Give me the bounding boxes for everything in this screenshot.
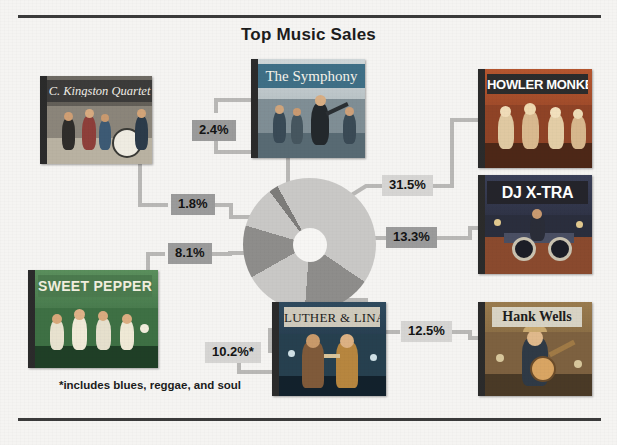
album-dj-x-tra: DJ X-TRA xyxy=(478,175,592,274)
album-title-luther-and-lina: LUTHER & LINA xyxy=(284,311,380,324)
callout-badge-kingston: 1.8% xyxy=(171,194,215,215)
footnote-text: *includes blues, reggae, and soul xyxy=(30,379,270,391)
album-luther-and-lina: LUTHER & LINA xyxy=(272,302,386,396)
callout-badge-luther-lina: 10.2%* xyxy=(205,342,261,363)
frame-bottom-rule xyxy=(18,418,601,421)
album-title-the-symphony: The Symphony xyxy=(258,69,365,84)
frame-top-rule xyxy=(18,15,601,18)
pie-center-hole xyxy=(293,228,327,262)
page-title: Top Music Sales xyxy=(0,25,617,45)
album-title-howler-monkey: HOWLER MONKEY xyxy=(487,78,588,91)
album-c-kingston-quartet: C. Kingston Quartet xyxy=(40,76,152,164)
callout-badge-hank-wells: 12.5% xyxy=(401,321,452,342)
callout-badge-dj-x-tra: 13.3% xyxy=(386,227,437,248)
callout-badge-howler-monkey: 31.5% xyxy=(382,175,433,196)
pie-chart xyxy=(243,178,376,311)
album-title-c-kingston-quartet: C. Kingston Quartet xyxy=(47,85,152,98)
infographic-canvas: Top Music Sales xyxy=(0,0,617,445)
album-the-symphony: The Symphony xyxy=(251,59,365,158)
album-howler-monkey: HOWLER MONKEY xyxy=(478,69,592,168)
album-hank-wells: Hank Wells xyxy=(478,302,592,396)
album-title-sweet-pepper: SWEET PEPPER xyxy=(38,279,152,293)
callout-badge-sweet-pepper: 8.1% xyxy=(168,243,212,264)
album-title-hank-wells: Hank Wells xyxy=(492,310,582,324)
album-title-dj-x-tra: DJ X-TRA xyxy=(487,185,588,201)
album-sweet-pepper: SWEET PEPPER xyxy=(28,270,158,368)
callout-badge-symphony: 2.4% xyxy=(192,120,236,141)
